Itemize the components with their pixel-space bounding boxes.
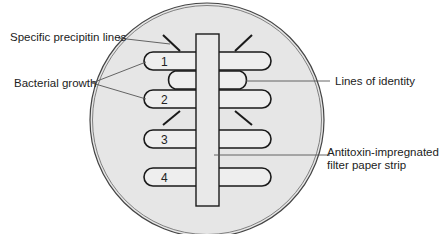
streak-1-left: [144, 52, 196, 70]
identity-arc-left: [169, 71, 196, 89]
streak-number-4: 4: [161, 171, 168, 185]
streak-2-right: [219, 90, 271, 108]
streak-number-1: 1: [161, 55, 168, 69]
identity-arc-right: [219, 71, 246, 89]
label-antitoxin-strip-line1: Antitoxin-impregnated: [327, 146, 439, 159]
streak-3-right: [219, 130, 271, 148]
streak-1-right: [219, 52, 271, 70]
streak-4-left: [144, 168, 196, 186]
streak-number-2: 2: [161, 93, 168, 107]
label-bacterial-growth: Bacterial growth: [14, 77, 96, 90]
label-antitoxin-strip-line2: filter paper strip: [327, 159, 406, 172]
streak-4-right: [219, 168, 271, 186]
streak-number-3: 3: [161, 133, 168, 147]
label-lines-of-identity: Lines of identity: [335, 75, 415, 88]
label-specific-precipitin-lines: Specific precipitin lines: [10, 31, 126, 44]
streak-2-left: [144, 90, 196, 108]
streak-3-left: [144, 130, 196, 148]
filter-paper-strip: [196, 34, 219, 206]
